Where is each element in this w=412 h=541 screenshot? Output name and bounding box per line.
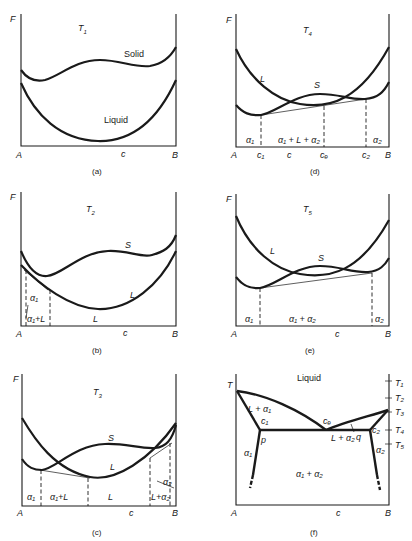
- panel-c-caption: (c): [92, 528, 102, 537]
- panel-f-alpha1-label: α₁: [244, 448, 252, 458]
- panel-f-p-label: p: [260, 435, 266, 445]
- panel-b-alpha1-label: α₁: [30, 293, 38, 303]
- panel-e: F T5 L S α₁ α₁ + α₂ α₂ A c B (e): [226, 194, 391, 355]
- panel-e-x-label-B: B: [385, 329, 391, 339]
- panel-f-temperature-ticks: T₁ T₂ T₃ T₄ T₅: [385, 378, 404, 450]
- panel-f-c1-label: c₁: [261, 416, 269, 426]
- panel-b-solid-curve: [21, 235, 176, 276]
- panel-e-y-axis-label: F: [226, 194, 232, 204]
- panel-f-tick-T2: T₂: [395, 393, 404, 403]
- panel-e-axes: [236, 194, 389, 326]
- panel-e-S-curve-label: S: [318, 253, 324, 263]
- panel-f-tick-T4: T₄: [395, 425, 404, 435]
- panel-d: F T4 L S α₁ α₁ + L + α₂ α₂ A c₁ c cₑ c₂ …: [226, 14, 391, 176]
- panel-c-L-region-label: L: [108, 492, 113, 502]
- panel-d-solid-curve: [236, 82, 389, 115]
- panel-f-x-label-A: A: [230, 508, 237, 518]
- panel-d-L-curve-label: L: [260, 74, 265, 84]
- panel-c-x-label-c: c: [129, 508, 134, 518]
- panel-b-axes: [21, 192, 176, 326]
- panel-a-y-axis-label: F: [10, 14, 16, 24]
- panel-e-alpha1-plus-alpha2-label: α₁ + α₂: [289, 314, 316, 324]
- panel-d-x-label-B: B: [385, 150, 391, 160]
- panel-c-solid-curve: [22, 425, 176, 470]
- panel-e-L-curve-label: L: [270, 246, 275, 256]
- panel-a-solid-label: Solid: [124, 49, 144, 59]
- panel-a-x-label-c: c: [121, 149, 126, 159]
- panel-f-caption: (f): [310, 528, 318, 537]
- panel-f-q-label: q: [356, 432, 361, 442]
- panel-d-S-curve-label: S: [314, 80, 320, 90]
- panel-b-y-axis-label: F: [10, 192, 16, 202]
- panel-c-alpha2-label: α₂: [163, 477, 172, 487]
- panel-b: F T2 α₁ α₁+L L S L A c B (b): [10, 192, 178, 355]
- panel-d-x-label-c: c: [287, 150, 292, 160]
- panel-f-x-label-c: c: [336, 508, 341, 518]
- panel-d-three-phase-label: α₁ + L + α₂: [278, 135, 320, 145]
- panel-b-caption: (b): [92, 346, 102, 355]
- panel-e-temperature-label: T5: [303, 204, 313, 216]
- panel-f-c2-label: c₂: [372, 425, 381, 435]
- panel-f-solvus-right-dashed: [377, 475, 380, 490]
- panel-c-alpha1-plus-L-label: α₁+L: [50, 492, 68, 502]
- panel-e-alpha2-label: α₂: [375, 314, 384, 324]
- panel-b-x-label-c: c: [123, 328, 128, 338]
- panel-e-x-label-c: c: [335, 329, 340, 339]
- panel-f-alpha1-plus-alpha2-label: α₁ + α₂: [296, 469, 323, 479]
- panel-f-tick-T5: T₅: [395, 440, 404, 450]
- panel-d-alpha1-label: α₁: [246, 135, 254, 145]
- free-energy-phase-diagram-figure: F T1 Solid Liquid A c B (a) F T2 α₁ α₁+L…: [0, 0, 412, 541]
- panel-b-liquid-curve: [21, 251, 176, 309]
- panel-b-L-curve-label: L: [130, 290, 135, 300]
- panel-d-temperature-label: T4: [303, 25, 313, 37]
- panel-d-x-label-A: A: [230, 150, 237, 160]
- panel-c-L-curve-label: L: [110, 462, 115, 472]
- panel-f-liquid-label: Liquid: [297, 373, 321, 383]
- panel-d-liquid-curve: [236, 47, 389, 105]
- panel-f-x-label-B: B: [385, 508, 391, 518]
- panel-a-liquid-label: Liquid: [104, 115, 128, 125]
- panel-d-y-axis-label: F: [226, 15, 232, 25]
- panel-a-temperature-label: T1: [78, 23, 87, 35]
- panel-b-temperature-label: T2: [86, 204, 96, 216]
- panel-e-caption: (e): [305, 346, 315, 355]
- panel-a-x-label-B: B: [172, 150, 178, 160]
- panel-c-y-axis-label: F: [13, 374, 19, 384]
- panel-f-L-plus-alpha1-label: L + α₁: [248, 404, 271, 414]
- panel-f-y-axis-label: T: [227, 380, 234, 390]
- panel-b-x-label-B: B: [172, 329, 178, 339]
- panel-f-tick-T3: T₃: [395, 407, 404, 417]
- panel-c-x-label-B: B: [172, 508, 178, 518]
- panel-a-solid-curve: [21, 47, 176, 81]
- panel-a-x-label-A: A: [15, 150, 22, 160]
- panel-b-S-curve-label: S: [125, 240, 131, 250]
- panel-d-x-label-c1: c₁: [257, 150, 265, 160]
- panel-f-alpha2-label: α₂: [376, 445, 385, 455]
- panel-c-x-label-A: A: [16, 508, 23, 518]
- panel-d-alpha2-label: α₂: [373, 135, 382, 145]
- panel-f-ce-label: cₑ: [323, 416, 332, 426]
- panel-f-tick-T1: T₁: [395, 378, 403, 388]
- panel-c: F T3 α₁ α₁+L L L+α₂ α₂ L S A c B (c): [13, 374, 178, 537]
- panel-e-alpha1-label: α₁: [245, 314, 253, 324]
- panel-d-caption: (d): [310, 167, 320, 176]
- panel-c-S-curve-label: S: [108, 433, 114, 443]
- panel-f-solvus-left: [253, 430, 260, 475]
- panel-c-alpha1-label: α₁: [27, 492, 35, 502]
- panel-a-liquid-curve: [21, 80, 176, 141]
- panel-a: F T1 Solid Liquid A c B (a): [10, 14, 178, 176]
- panel-f-solvus-left-dashed: [250, 475, 253, 488]
- panel-d-common-tangent: [261, 99, 366, 115]
- panel-b-x-label-A: A: [15, 329, 22, 339]
- panel-b-L-region-label: L: [93, 314, 98, 324]
- panel-d-x-label-c2: c₂: [362, 150, 371, 160]
- panel-c-L-plus-alpha2-label: L+α₂: [151, 492, 170, 502]
- panel-c-temperature-label: T3: [93, 387, 103, 399]
- panel-e-x-label-A: A: [230, 329, 237, 339]
- panel-e-solid-curve: [236, 258, 389, 288]
- panel-f-L-plus-alpha2-label: L + α₂: [331, 433, 355, 443]
- panel-d-x-label-ce: cₑ: [320, 150, 329, 160]
- panel-b-alpha1-plus-L-label: α₁+L: [27, 314, 45, 324]
- panel-a-caption: (a): [92, 167, 102, 176]
- panel-f: T T₁ T₂ T₃ T₄ T₅ Liquid: [227, 373, 404, 537]
